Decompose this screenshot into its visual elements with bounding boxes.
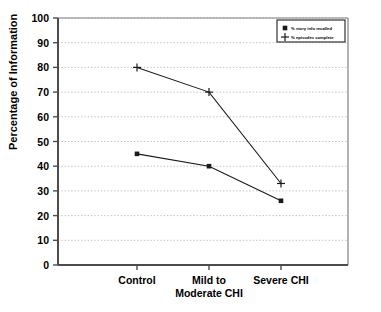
y-tick-label: 100 — [31, 12, 49, 24]
x-tick-label: Mild to — [192, 274, 226, 286]
y-tick-label: 30 — [37, 185, 49, 197]
x-tick-label: Severe CHI — [253, 274, 309, 286]
series-1-point-2-square-marker — [207, 164, 212, 169]
legend-1-square-marker — [283, 26, 288, 31]
y-tick-label: 60 — [37, 111, 49, 123]
y-axis-label: Percentage of Information — [7, 13, 19, 150]
y-tick-label: 80 — [37, 61, 49, 73]
y-tick-label: 90 — [37, 37, 49, 49]
y-tick-label: 40 — [37, 160, 49, 172]
chart-legend: % story info recalled% episodes complete — [277, 20, 345, 42]
series-1-point-1-square-marker — [135, 152, 140, 157]
y-tick-label: 10 — [37, 234, 49, 246]
series-1-point-3-square-marker — [279, 198, 284, 203]
y-tick-label: 20 — [37, 210, 49, 222]
y-tick-label: 50 — [37, 136, 49, 148]
chart-container: Percentage of Information 01020304050607… — [0, 0, 381, 312]
y-tick-label: 70 — [37, 86, 49, 98]
y-tick-label: 0 — [43, 259, 49, 271]
legend-item-label: % story info recalled — [291, 26, 332, 31]
legend-item-1: % story info recalled — [283, 26, 333, 31]
legend-item-label: % episodes complete — [291, 35, 334, 40]
x-tick-label: Control — [118, 274, 155, 286]
line-chart: Percentage of Information 01020304050607… — [0, 0, 381, 312]
x-tick-label-line2: Moderate CHI — [175, 287, 243, 299]
